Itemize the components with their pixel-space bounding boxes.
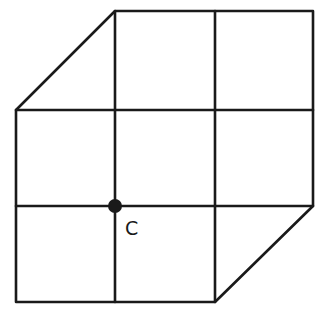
point-c-marker bbox=[108, 199, 122, 213]
point-c-label: C bbox=[125, 217, 138, 239]
grid-diagram: C bbox=[0, 0, 324, 313]
outer-outline bbox=[16, 11, 313, 302]
